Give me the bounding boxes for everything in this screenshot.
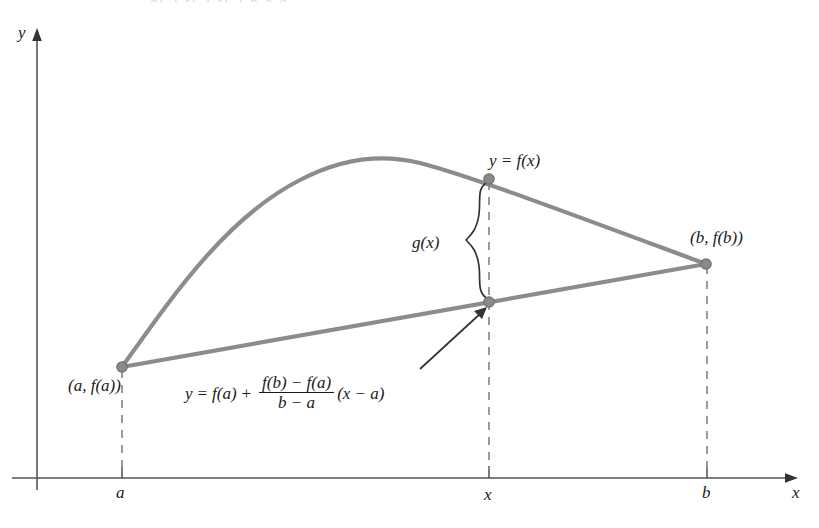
tick-label-a: a — [116, 484, 125, 501]
point-a-label: (a, f(a)) — [68, 377, 121, 394]
x-axis-label: x — [792, 484, 800, 501]
secant-eq-lhs: y — [185, 385, 193, 402]
gap-brace — [466, 181, 489, 300]
point-b-f-b — [701, 259, 711, 269]
tick-label-b: b — [702, 484, 711, 501]
secant-eq-term1: f(a) — [212, 385, 237, 402]
point-b-label: (b, f(b)) — [690, 229, 743, 246]
secant-eq-equals: = — [197, 385, 208, 402]
mean-value-theorem-figure: g( ) f( ) f( ) b a g — [0, 0, 819, 528]
secant-eq-numerator: f(b) − f(a) — [259, 374, 334, 392]
gap-label: g(x) — [412, 234, 439, 251]
equation-pointer-arrow — [420, 307, 487, 369]
axis-ticks — [122, 466, 707, 478]
x-axis — [12, 473, 798, 483]
secant-eq-factor: (x − a) — [337, 385, 384, 402]
marked-points — [117, 174, 711, 372]
secant-eq-denominator: b − a — [275, 393, 318, 411]
point-x-f-x — [484, 174, 494, 184]
point-a-f-a — [117, 362, 127, 372]
diagram-canvas — [0, 0, 819, 528]
dashed-guide-lines — [122, 182, 707, 470]
tick-label-x: x — [484, 486, 492, 503]
curve-equation-label: y = f(x) — [489, 152, 540, 169]
function-curve — [122, 158, 706, 367]
secant-eq-fraction: f(b) − f(a) b − a — [259, 374, 334, 411]
secant-equation: y = f(a) + f(b) − f(a) b − a (x − a) — [185, 375, 384, 412]
y-axis — [32, 28, 42, 490]
point-x-secant — [484, 297, 494, 307]
y-axis-label: y — [18, 24, 26, 41]
secant-eq-plus: + — [241, 385, 252, 402]
secant-line — [122, 264, 706, 367]
